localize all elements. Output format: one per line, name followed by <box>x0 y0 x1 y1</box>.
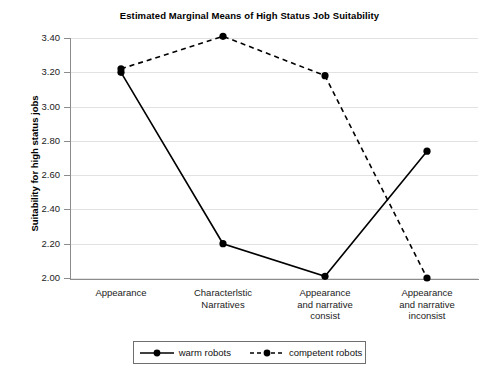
legend-item[interactable]: warm robots <box>139 347 231 359</box>
y-axis-tick-label: 2.80 <box>0 135 60 146</box>
x-axis-category-label: CharacterlsticNarratives <box>172 287 274 310</box>
gridline <box>70 72 478 73</box>
y-axis-tick-label: 2.40 <box>0 203 60 214</box>
y-axis-tick <box>64 278 70 279</box>
x-axis-category-label: Appearanceand narrativeconsist <box>274 287 376 322</box>
y-axis-tick-label: 2.00 <box>0 272 60 283</box>
y-axis-tick <box>64 38 70 39</box>
y-axis-line <box>70 38 71 279</box>
y-axis-label: Suitability for high status jobs <box>29 64 40 264</box>
y-axis-tick <box>64 141 70 142</box>
y-axis-tick-label: 3.40 <box>0 32 60 43</box>
y-axis-tick <box>64 72 70 73</box>
y-axis-tick <box>64 107 70 108</box>
y-axis-tick <box>64 175 70 176</box>
y-axis-tick <box>64 209 70 210</box>
gridline <box>70 107 478 108</box>
gridline <box>70 209 478 210</box>
y-axis-tick-label: 3.00 <box>0 101 60 112</box>
gridline <box>70 244 478 245</box>
x-axis-category-label: Appearanceand narrativeinconsist <box>376 287 478 322</box>
chart-title: Estimated Marginal Means of High Status … <box>0 10 499 21</box>
gridline <box>70 141 478 142</box>
gridline <box>70 175 478 176</box>
y-axis-tick <box>64 244 70 245</box>
plot-grid <box>70 38 478 278</box>
legend-label: warm robots <box>179 347 231 358</box>
legend-label: competent robots <box>289 347 362 358</box>
y-axis-tick-label: 3.20 <box>0 66 60 77</box>
y-axis-tick-label: 2.20 <box>0 238 60 249</box>
legend-marker-icon <box>139 347 175 359</box>
y-axis-tick-label: 2.60 <box>0 169 60 180</box>
x-axis-line <box>70 279 479 280</box>
legend-item[interactable]: competent robots <box>249 347 362 359</box>
gridline <box>70 38 478 39</box>
chart-figure: Estimated Marginal Means of High Status … <box>0 0 499 379</box>
x-axis-category-label: Appearance <box>70 287 172 299</box>
chart-legend: warm robotscompetent robots <box>133 341 366 364</box>
legend-marker-icon <box>249 347 285 359</box>
